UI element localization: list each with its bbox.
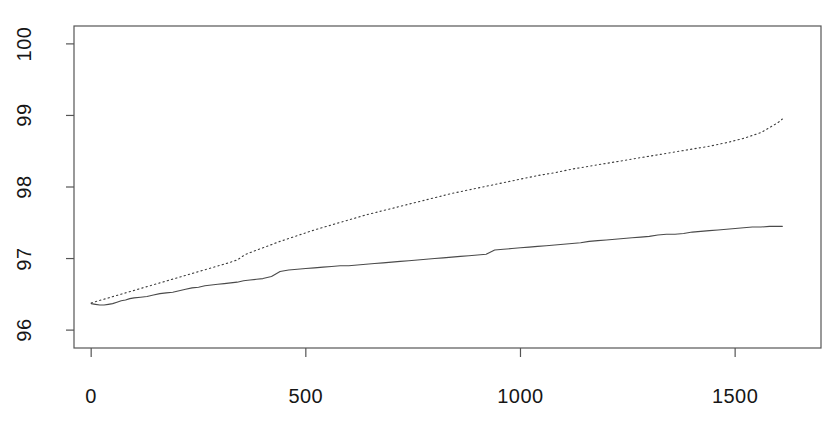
y-axis-tick-label: 97	[14, 229, 34, 289]
chart-background	[0, 0, 839, 439]
x-axis-tick-label: 0	[31, 386, 151, 406]
y-axis-tick-label: 100	[14, 14, 34, 74]
y-axis-tick-label: 98	[14, 157, 34, 217]
plot-area	[0, 0, 839, 439]
x-axis-tick-label: 1000	[460, 386, 580, 406]
y-axis-tick-label: 96	[14, 300, 34, 360]
x-axis-tick-label: 500	[246, 386, 366, 406]
x-axis-tick-label: 1500	[675, 386, 795, 406]
y-axis-tick-label: 99	[14, 85, 34, 145]
chart-figure: 96979899100 050010001500	[0, 0, 839, 439]
